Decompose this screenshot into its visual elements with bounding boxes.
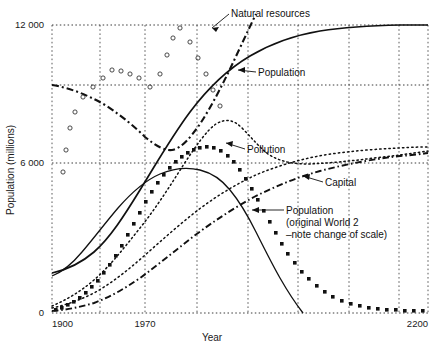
x-tick-1900: 1900 — [52, 318, 73, 329]
y-tick-0: 0 — [39, 307, 44, 318]
x-tick-1970: 1970 — [134, 318, 155, 329]
annotation-natural-resources-label: Natural resources — [231, 8, 310, 19]
annotation-population-original-line1: Population — [286, 205, 333, 216]
annotation-pollution-label: Pollution — [247, 144, 285, 155]
annotation-capital-label: Capital — [325, 177, 356, 188]
annotation-population-original-line3: –note change of scale) — [286, 229, 387, 240]
y-tick-12000: 12 000 — [15, 19, 44, 30]
x-tick-2200: 2200 — [407, 318, 428, 329]
x-axis-title: Year — [202, 332, 223, 343]
y-axis-title: Population (millions) — [5, 125, 16, 215]
annotation-population-original-line2: (original World 2 — [286, 217, 359, 228]
y-tick-6000: 6 000 — [20, 157, 44, 168]
limits-to-growth-chart: Natural resources Population Pollution C… — [0, 0, 433, 344]
annotation-population-label: Population — [258, 67, 305, 78]
chart-root: Natural resources Population Pollution C… — [0, 0, 433, 344]
